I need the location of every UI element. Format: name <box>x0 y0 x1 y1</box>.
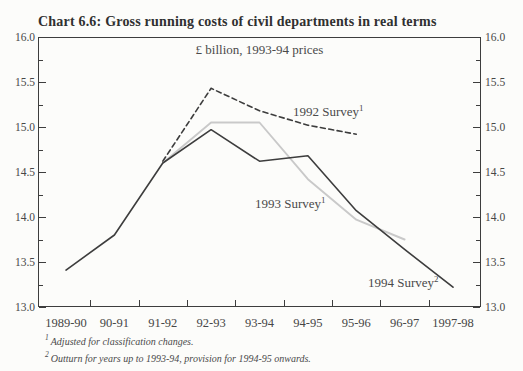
y-tick-label-left: 15.5 <box>15 76 35 88</box>
y-tick-label-right: 14.0 <box>485 211 505 223</box>
y-tick-label-left: 16.0 <box>15 31 35 43</box>
footnote-2-text: Outturn for years up to 1993-94, provisi… <box>51 354 311 365</box>
chart-subtitle: £ billion, 1993-94 prices <box>38 42 481 58</box>
x-tick-label: 93-94 <box>245 316 275 330</box>
x-tick-label: 94-95 <box>293 316 322 330</box>
x-tick-label: 91-92 <box>148 316 177 330</box>
y-tick-label-right: 16.0 <box>485 31 505 43</box>
y-tick-label-right: 15.0 <box>485 121 505 133</box>
y-tick-label-right: 13.0 <box>485 301 505 313</box>
y-axis-right: 16.015.515.014.514.013.513.0 <box>473 31 505 313</box>
series-label-1993-survey: 1993 Survey1 <box>255 195 326 211</box>
series-line-1993-survey <box>163 123 405 240</box>
y-tick-label-left: 14.0 <box>15 211 35 223</box>
x-tick-label: 96-97 <box>390 316 419 330</box>
x-tick-label: 1989-90 <box>45 316 87 330</box>
x-tick-label: 92-93 <box>197 316 226 330</box>
series-label-1992-survey: 1992 Survey1 <box>293 103 364 119</box>
series-line-1992-survey <box>163 88 356 161</box>
y-tick-label-left: 13.0 <box>15 301 35 313</box>
footnote-2-marker: 2 <box>45 350 49 359</box>
y-tick-label-left: 15.0 <box>15 121 35 133</box>
footnote-1-marker: 1 <box>45 333 49 342</box>
chart-page: Chart 6.6: Gross running costs of civil … <box>0 0 523 371</box>
series-lines <box>66 88 453 287</box>
y-axis-left: 16.015.515.014.514.013.513.0 <box>15 31 46 313</box>
plot-border <box>39 38 481 307</box>
plot-frame <box>39 38 481 307</box>
footnote-1-text: Adjusted for classification changes. <box>51 336 194 347</box>
x-tick-label: 95-96 <box>342 316 371 330</box>
y-tick-label-left: 14.5 <box>15 166 35 178</box>
footnotes: 1Adjusted for classification changes. 2O… <box>45 332 311 367</box>
x-tick-label: 90-91 <box>100 316 129 330</box>
y-tick-label-left: 13.5 <box>15 256 35 268</box>
series-labels: 1992 Survey11993 Survey11994 Survey2 <box>255 103 439 290</box>
x-axis: 1989-9090-9191-9292-9393-9494-9595-9696-… <box>45 300 474 330</box>
x-tick-label: 1997-98 <box>432 316 474 330</box>
y-tick-label-right: 14.5 <box>485 166 505 178</box>
y-tick-label-right: 13.5 <box>485 256 505 268</box>
footnote-2: 2Outturn for years up to 1993-94, provis… <box>45 349 311 366</box>
footnote-1: 1Adjusted for classification changes. <box>45 332 311 349</box>
y-tick-label-right: 15.5 <box>485 76 505 88</box>
series-label-1994-survey: 1994 Survey2 <box>368 274 439 290</box>
